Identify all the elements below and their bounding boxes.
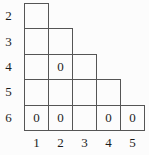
grid-cell xyxy=(72,54,97,80)
col-label: 3 xyxy=(72,133,97,151)
grid-cell: 0 xyxy=(96,105,121,131)
grid-cell xyxy=(96,79,121,105)
grid-cell: 0 xyxy=(120,105,145,131)
col-label: 4 xyxy=(96,133,121,151)
col-label: 2 xyxy=(48,133,73,151)
row-label: 6 xyxy=(0,105,17,130)
grid-cell: 0 xyxy=(48,105,73,131)
grid-cell: 0 xyxy=(24,105,49,131)
grid-cell xyxy=(24,79,49,105)
row-label: 5 xyxy=(0,79,17,104)
grid-cell xyxy=(48,28,73,54)
grid-cell xyxy=(24,3,49,29)
col-label: 5 xyxy=(120,133,145,151)
grid-cell: 0 xyxy=(48,54,73,80)
row-label: 3 xyxy=(0,28,17,53)
row-label: 4 xyxy=(0,54,17,79)
grid-cell xyxy=(24,54,49,80)
grid-cell xyxy=(72,79,97,105)
grid-cell xyxy=(72,105,97,131)
grid-cell xyxy=(48,79,73,105)
col-label: 1 xyxy=(24,133,49,151)
row-label: 2 xyxy=(0,3,17,28)
staircase-grid-figure: 23456 00000 12345 xyxy=(0,0,149,155)
grid-cell xyxy=(24,28,49,54)
